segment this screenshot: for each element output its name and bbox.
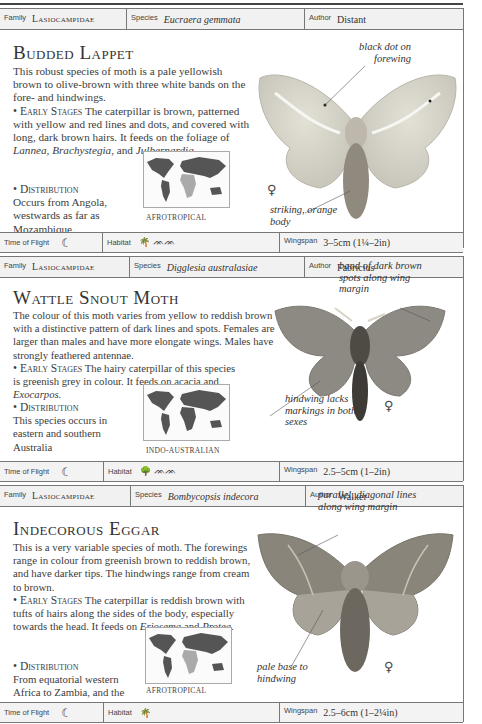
species-value: Digglesia australasiae	[167, 262, 258, 273]
early-stages-paragraph: • Early Stages The caterpillar is brown,…	[13, 105, 253, 158]
species-description: This robust species of moth is a pale ye…	[13, 65, 253, 157]
wingspan-cell: Wingspan2.5–6cm (1–2¼in)	[280, 703, 463, 722]
species-title: Wattle Snout Moth	[13, 287, 179, 309]
female-symbol-icon: ♀	[384, 398, 394, 413]
early-stages-heading: • Early Stages	[13, 105, 82, 117]
world-map-icon	[144, 152, 229, 207]
habitat-label: Habitat	[107, 238, 131, 247]
species-label: Species	[135, 490, 162, 499]
description-text: The colour of this moth varies from yell…	[13, 309, 275, 362]
world-map	[143, 384, 230, 441]
distribution-text: Occurs from Angola, westwards as far as …	[13, 196, 138, 236]
annotation-wing-margin-band: band of dark brown spots along wing marg…	[339, 260, 439, 295]
annotation-hindwing-markings: hindwing lacks markings in both sexes	[285, 393, 360, 428]
time-of-flight-label: Time of Flight	[4, 708, 49, 717]
species-cell: SpeciesBombycopsis indecora	[131, 486, 306, 506]
family-value: Lasiocampidae	[32, 491, 95, 501]
annotation-orange-body: striking, orange body	[270, 204, 340, 227]
early-stages-heading: • Early Stages	[13, 362, 82, 374]
species-card-indecorous-eggar: FamilyLasiocampidae SpeciesBombycopsis i…	[0, 485, 464, 722]
moon-icon: ☾	[61, 465, 72, 479]
time-of-flight-label: Time of Flight	[4, 238, 49, 247]
annotation-diagonal-lines: parallel, diagonal lines along wing marg…	[318, 489, 418, 512]
time-of-flight-cell: Time of Flight☾	[0, 703, 104, 722]
wingspan-label: Wingspan	[284, 236, 317, 245]
wingspan-value: 2.5–5cm (1–2in)	[323, 466, 390, 477]
taxonomy-header: FamilyLasiocampidae SpeciesEucraera gemm…	[0, 8, 463, 30]
female-symbol-icon: ♀	[384, 659, 394, 674]
moon-icon: ☾	[61, 706, 72, 720]
family-value: Lasiocampidae	[32, 262, 95, 272]
author-label: Author	[309, 261, 331, 270]
palm-tree-grassland-icon: 🌴 ᨏᨏ	[139, 237, 175, 248]
info-footer: Time of Flight☾ Habitat🌴 ᨏᨏ Wingspan3–5c…	[0, 232, 463, 253]
family-label: Family	[4, 13, 26, 22]
species-value: Bombycopsis indecora	[168, 491, 259, 502]
annotation-forewing-dot: black dot on forewing	[341, 41, 411, 64]
world-map	[145, 627, 232, 684]
distribution-block: • Distribution Occurs from Angola, westw…	[13, 183, 138, 236]
wingspan-cell: Wingspan3–5cm (1¼–2in)	[280, 233, 463, 252]
wingspan-label: Wingspan	[284, 706, 317, 715]
family-label: Family	[4, 261, 26, 270]
plant-names: Exocarpos.	[13, 388, 61, 400]
annotation-pale-hindwing-base: pale base to hindwing	[257, 661, 317, 684]
world-map-icon	[146, 628, 231, 683]
species-card-wattle-snout-moth: FamilyLasiocampidae SpeciesDigglesia aus…	[0, 256, 464, 481]
distribution-heading: • Distribution	[13, 401, 125, 414]
palm-tree-icon: 🌴	[140, 708, 151, 718]
family-cell: FamilyLasiocampidae	[0, 9, 127, 29]
species-description: The colour of this moth varies from yell…	[13, 309, 275, 362]
habitat-label: Habitat	[108, 467, 132, 476]
species-value: Eucraera gemmata	[164, 14, 241, 25]
family-value: Lasiocampidae	[32, 14, 95, 24]
moon-icon: ☾	[61, 236, 72, 250]
world-map	[143, 151, 230, 208]
species-cell: SpeciesDigglesia australasiae	[130, 257, 305, 277]
species-label: Species	[134, 261, 161, 270]
distribution-heading: • Distribution	[13, 183, 138, 196]
region-label: AFROTROPICAL	[146, 686, 206, 695]
tree-grassland-icon: 🌳 ᨏᨏ	[140, 466, 176, 477]
habitat-cell: Habitat🌴 ᨏᨏ	[103, 233, 280, 252]
description-text: This is a very variable species of moth.…	[13, 541, 253, 594]
species-title: Budded Lappet	[13, 42, 134, 64]
region-label: AFROTROPICAL	[146, 213, 206, 222]
family-cell: FamilyLasiocampidae	[0, 486, 131, 506]
wingspan-value: 3–5cm (1¼–2in)	[323, 237, 390, 248]
early-stages-text-2: and	[114, 144, 136, 156]
family-cell: FamilyLasiocampidae	[0, 257, 130, 277]
description-text: This robust species of moth is a pale ye…	[13, 65, 253, 105]
info-footer: Time of Flight☾ Habitat🌴 Wingspan2.5–6cm…	[0, 702, 463, 723]
species-cell: SpeciesEucraera gemmata	[127, 9, 305, 29]
info-footer: Time of Flight☾ Habitat🌳 ᨏᨏ Wingspan2.5–…	[0, 461, 463, 482]
world-map-icon	[144, 385, 229, 440]
page-top-rule	[0, 3, 463, 5]
family-label: Family	[4, 490, 26, 499]
habitat-label: Habitat	[108, 708, 132, 717]
wingspan-value: 2.5–6cm (1–2¼in)	[323, 707, 397, 718]
distribution-text: This species occurs in eastern and south…	[13, 414, 125, 454]
habitat-cell: Habitat🌳 ᨏᨏ	[104, 462, 280, 481]
female-symbol-icon: ♀	[267, 182, 277, 197]
author-label: Author	[309, 13, 331, 22]
wingspan-label: Wingspan	[284, 465, 317, 474]
time-of-flight-label: Time of Flight	[4, 467, 49, 476]
plant-names: Lannea, Brachystegia,	[13, 144, 114, 156]
species-description: This is a very variable species of moth.…	[13, 541, 253, 633]
species-card-budded-lappet: FamilyLasiocampidae SpeciesEucraera gemm…	[0, 8, 464, 248]
time-of-flight-cell: Time of Flight☾	[0, 233, 103, 252]
distribution-block: • Distribution This species occurs in ea…	[13, 401, 125, 454]
wingspan-cell: Wingspan2.5–5cm (1–2in)	[280, 462, 463, 481]
author-value: Distant	[337, 14, 366, 25]
species-title: Indecorous Eggar	[13, 518, 160, 540]
author-cell: AuthorDistant	[305, 9, 463, 29]
early-stages-heading: • Early Stages	[13, 594, 82, 606]
species-label: Species	[131, 13, 158, 22]
distribution-heading: • Distribution	[13, 660, 143, 673]
time-of-flight-cell: Time of Flight☾	[0, 462, 104, 481]
region-label: INDO-AUSTRALIAN	[146, 446, 220, 455]
habitat-cell: Habitat🌴	[104, 703, 280, 722]
